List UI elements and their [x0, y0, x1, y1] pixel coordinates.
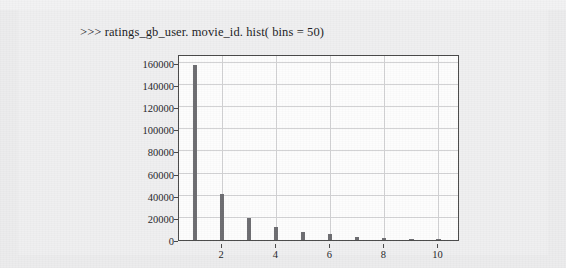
- histogram-bar: [382, 238, 386, 240]
- x-axis-tick-labels: 246810: [178, 244, 459, 266]
- plot-area: [178, 55, 459, 241]
- x-tick-label: 6: [327, 249, 332, 260]
- histogram-bar: [220, 194, 224, 241]
- y-tick-label: 40000: [148, 191, 174, 202]
- histogram-bar: [355, 237, 359, 240]
- histogram-bar: [193, 65, 197, 240]
- x-tick-label: 4: [273, 249, 278, 260]
- y-tick-label: 160000: [143, 58, 175, 69]
- histogram-bar: [301, 232, 305, 240]
- histogram-bar: [436, 239, 440, 240]
- histogram-bars: [179, 56, 458, 240]
- x-tick-label: 8: [381, 249, 386, 260]
- histogram-bar: [409, 239, 413, 240]
- x-tick-label: 10: [432, 249, 443, 260]
- code-caption: >>> ratings_gb_user. movie_id. hist( bin…: [80, 25, 324, 40]
- y-axis-tick-labels: 0200004000060000800001000001200001400001…: [114, 49, 174, 247]
- figure-panel: >>> ratings_gb_user. movie_id. hist( bin…: [18, 10, 548, 255]
- page-top-strip: [0, 0, 566, 10]
- x-tick-mark: [275, 244, 276, 248]
- histogram-bar: [274, 227, 278, 240]
- x-tick-mark: [221, 244, 222, 248]
- y-tick-label: 120000: [143, 103, 175, 114]
- y-tick-label: 80000: [148, 147, 174, 158]
- histogram-bar: [328, 234, 332, 240]
- y-tick-label: 20000: [148, 213, 174, 224]
- y-tick-mark: [174, 241, 178, 242]
- x-tick-mark: [383, 244, 384, 248]
- x-tick-mark: [329, 244, 330, 248]
- y-tick-label: 60000: [148, 169, 174, 180]
- x-tick-label: 2: [219, 249, 224, 260]
- y-tick-label: 140000: [143, 81, 175, 92]
- histogram-bar: [247, 218, 251, 240]
- y-tick-label: 100000: [143, 125, 175, 136]
- x-tick-mark: [437, 244, 438, 248]
